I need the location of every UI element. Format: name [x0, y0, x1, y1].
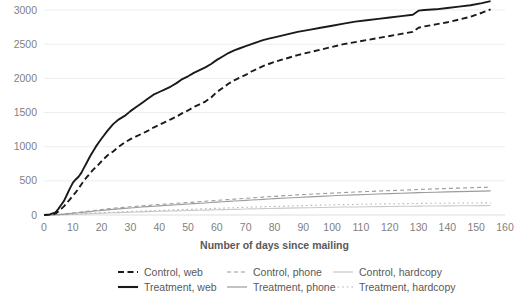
x-tick-label: 80 — [269, 221, 281, 233]
y-tick-label: 0 — [31, 209, 37, 221]
x-tick-label: 70 — [240, 221, 252, 233]
x-tick-label: 110 — [353, 221, 370, 233]
y-axis-tick-labels: 050010001500200025003000 — [14, 4, 38, 221]
x-tick-label: 10 — [67, 221, 79, 233]
legend-label: Treatment, hardcopy — [359, 281, 456, 293]
series-line — [44, 206, 491, 215]
y-tick-label: 3000 — [14, 4, 38, 16]
series-line — [44, 187, 491, 215]
chart-legend: Control, webControl, phoneControl, hardc… — [118, 266, 456, 293]
y-tick-label: 1500 — [14, 106, 38, 118]
x-tick-label: 40 — [153, 221, 165, 233]
legend-label: Treatment, phone — [253, 281, 336, 293]
x-tick-label: 60 — [211, 221, 223, 233]
legend-label: Control, web — [144, 266, 203, 278]
x-tick-label: 90 — [297, 221, 309, 233]
x-axis-tick-labels: 0102030405060708090100110120130140150160 — [41, 221, 514, 233]
legend-label: Control, phone — [253, 266, 322, 278]
series-layer — [44, 1, 491, 215]
legend-label: Control, hardcopy — [359, 266, 443, 278]
x-tick-label: 0 — [41, 221, 47, 233]
legend-label: Treatment, web — [144, 281, 217, 293]
y-tick-label: 1000 — [14, 140, 38, 152]
y-tick-label: 2000 — [14, 72, 38, 84]
x-tick-label: 140 — [439, 221, 457, 233]
x-tick-label: 130 — [410, 221, 428, 233]
y-tick-label: 500 — [19, 174, 37, 186]
line-chart: 050010001500200025003000 010203040506070… — [0, 0, 516, 304]
x-tick-label: 150 — [467, 221, 485, 233]
x-tick-label: 50 — [182, 221, 194, 233]
gridlines — [44, 10, 505, 215]
series-line — [44, 191, 491, 215]
chart-canvas: 050010001500200025003000 010203040506070… — [0, 0, 516, 304]
y-tick-label: 2500 — [14, 38, 38, 50]
x-tick-label: 30 — [125, 221, 137, 233]
x-tick-label: 160 — [496, 221, 514, 233]
x-tick-label: 120 — [381, 221, 399, 233]
x-tick-label: 100 — [323, 221, 341, 233]
x-tick-label: 20 — [96, 221, 108, 233]
series-line — [44, 1, 491, 215]
x-axis-title: Number of days since mailing — [200, 239, 349, 251]
